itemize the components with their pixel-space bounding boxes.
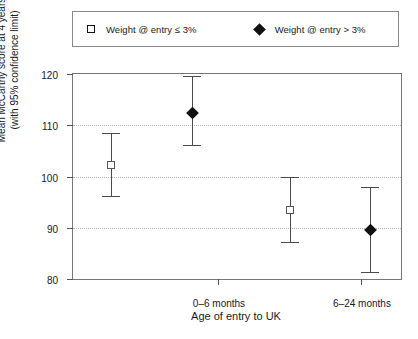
data-point-open-square xyxy=(107,161,115,169)
y-tick-label: 80 xyxy=(47,275,58,286)
y-axis-title: Mean McCarthy score at 4 years (with 95%… xyxy=(0,0,21,175)
errorbar-cap-lower xyxy=(281,242,299,243)
y-tick-120: 120 xyxy=(67,74,73,75)
data-point-open-square xyxy=(286,206,294,214)
legend-entry-weight-le-3: Weight @ entry ≤ 3% xyxy=(87,12,197,46)
x-tick-6-24-months: 6–24 months xyxy=(361,279,362,285)
y-tick-80: 80 xyxy=(67,279,73,280)
gridline-110 xyxy=(73,228,401,229)
errorbar-cap-lower xyxy=(102,196,120,197)
y-tick-label: 120 xyxy=(41,70,58,81)
y-tick-label: 100 xyxy=(41,172,58,183)
errorbar-cap-upper xyxy=(361,187,379,188)
y-tick-110: 110 xyxy=(67,125,73,126)
legend-label: Weight @ entry > 3% xyxy=(275,24,366,35)
y-tick-90: 90 xyxy=(67,228,73,229)
plot-inner: 120 110 100 90 80 0–6 months 6–24 months xyxy=(73,74,401,279)
x-tick-label: 0–6 months xyxy=(193,298,245,309)
legend-entry-weight-gt-3: Weight @ entry > 3% xyxy=(255,12,366,46)
filled-diamond-marker-icon xyxy=(253,23,266,36)
data-point-filled-diamond xyxy=(364,223,377,236)
data-point-filled-diamond xyxy=(186,107,199,120)
y-tick-label: 90 xyxy=(47,223,58,234)
x-tick-label: 6–24 months xyxy=(333,298,391,309)
errorbar-cap-lower xyxy=(361,272,379,273)
x-tick-0-6-months: 0–6 months xyxy=(218,279,219,285)
y-axis-title-line2: (with 95% confidence limit) xyxy=(9,0,22,175)
errorbar-cap-lower xyxy=(183,145,201,146)
gridline-100 xyxy=(73,177,401,178)
legend-label: Weight @ entry ≤ 3% xyxy=(106,24,197,35)
errorbar-cap-upper xyxy=(102,133,120,134)
plot-area: 120 110 100 90 80 0–6 months 6–24 months xyxy=(72,73,402,280)
y-tick-100: 100 xyxy=(67,177,73,178)
gridline-90 xyxy=(73,125,401,126)
y-axis-title-line1: Mean McCarthy score at 4 years xyxy=(0,0,9,175)
y-tick-label: 110 xyxy=(42,121,58,132)
errorbar-cap-upper xyxy=(281,177,299,178)
errorbar-cap-upper xyxy=(183,76,201,77)
open-square-marker-icon xyxy=(87,25,95,33)
x-axis-title: Age of entry to UK xyxy=(72,310,400,322)
chart-legend: Weight @ entry ≤ 3% Weight @ entry > 3% xyxy=(72,11,399,47)
